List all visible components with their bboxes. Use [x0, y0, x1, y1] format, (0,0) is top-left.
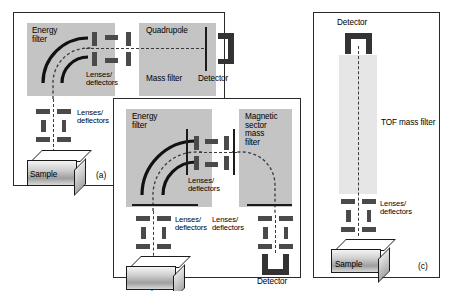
label-lenses-source-a: Lenses/ deflectors: [77, 109, 109, 125]
label-tof-mass-filter-c: TOF mass filter: [381, 119, 435, 128]
lenses-deflectors-source-b: [136, 216, 171, 248]
label-energy-filter-a: Energy filter: [32, 27, 57, 44]
label-detector-a: Detector: [198, 75, 228, 84]
label-mass-filter-a: Mass filter: [146, 75, 182, 84]
panel-c-tof: Detector TOF mass filter Lenses/ deflect…: [313, 12, 440, 278]
energy-filter-bottom-electrode-b: [132, 204, 198, 206]
sector-bottom-electrode-b: [247, 204, 292, 206]
label-detector-c: Detector: [337, 19, 367, 28]
label-lenses-source-b: Lenses/ deflectors: [175, 216, 207, 232]
label-sample-c: Sample: [335, 261, 362, 270]
lenses-deflectors-inline-a: [92, 31, 132, 67]
label-lenses-source-c: Lenses/ deflectors: [380, 200, 412, 216]
panel-tag-c: (c): [418, 261, 428, 271]
label-sample-a: Sample: [30, 171, 57, 180]
label-energy-filter-b: Energy filter: [132, 113, 157, 130]
label-lenses-detector-b: Lenses/ deflectors: [212, 216, 244, 232]
sample-box-b: [126, 256, 192, 290]
label-lenses-inline-b: Lenses/ deflectors: [188, 177, 220, 193]
label-lenses-inline-a: Lenses/ deflectors: [86, 71, 118, 87]
detector-icon-a: [212, 33, 234, 64]
lenses-deflectors-source-c: [341, 199, 376, 231]
label-magnetic-sector-b: Magnetic sector mass filter: [245, 113, 277, 147]
panel-b-magnetic-sector: Energy filter Magnetic sector mass filte…: [113, 98, 301, 278]
exit-electrode-b: [233, 129, 235, 175]
panel-tag-a: (a): [96, 170, 106, 180]
label-quadrupole-a: Quadrupole: [146, 27, 188, 36]
lenses-deflectors-inline-b: [194, 135, 230, 171]
mass-filter-exit-electrode-a: [205, 27, 207, 71]
lenses-deflectors-source-a: [36, 109, 71, 141]
detector-icon-b: [262, 254, 289, 275]
lenses-deflectors-detector-b: [258, 216, 293, 248]
figure-canvas: Energy filter Lenses/ deflectors Quadrup…: [0, 0, 453, 291]
label-detector-b: Detector: [257, 278, 287, 287]
entrance-electrode-b: [186, 129, 188, 175]
